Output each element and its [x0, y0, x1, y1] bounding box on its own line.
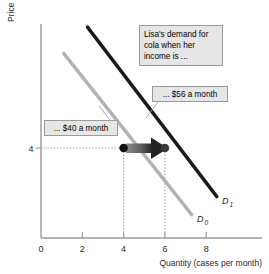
- y-tick-label-4: 4: [28, 144, 33, 154]
- x-tick-label-6: 6: [162, 244, 167, 254]
- callout-income-low: ... $40 a month: [44, 120, 118, 136]
- x-axis-title: Quantity (cases per month): [159, 258, 262, 268]
- curve-label-d0: D 0: [197, 214, 209, 226]
- curve-label-d1: D 1: [222, 196, 234, 208]
- y-axis-title: Price (dollars per case): [6, 0, 16, 22]
- x-tick-label-8: 8: [204, 244, 209, 254]
- callout-income-low-text: ... $40 a month: [54, 124, 109, 133]
- callout-income-high-text: ... $56 a month: [163, 90, 218, 99]
- callout-main: Lisa's demand for cola when her income i…: [139, 25, 223, 66]
- chart-canvas: D 1 D 0 0 2 4 6 8 4 Quantity (cases per …: [0, 0, 269, 274]
- callout-income-high: ... $56 a month: [152, 86, 228, 102]
- curve-label-d0-text: D: [197, 214, 204, 224]
- x-tick-label-4: 4: [121, 244, 126, 254]
- x-tick-label-2: 2: [80, 244, 85, 254]
- x-axis-ticks: [82, 232, 206, 238]
- demand-shift-chart: D 1 D 0 0 2 4 6 8 4 Quantity (cases per …: [0, 0, 269, 274]
- point-d1: [161, 144, 170, 153]
- point-d0: [119, 144, 128, 153]
- callout-main-text: Lisa's demand for cola when her income i…: [144, 29, 218, 62]
- x-tick-label-0: 0: [38, 244, 43, 254]
- curve-label-d1-text: D: [222, 196, 229, 206]
- x-tick-labels: 0 2 4 6 8: [38, 244, 208, 254]
- curve-label-d1-sub: 1: [230, 201, 234, 208]
- curve-label-d0-sub: 0: [205, 219, 209, 226]
